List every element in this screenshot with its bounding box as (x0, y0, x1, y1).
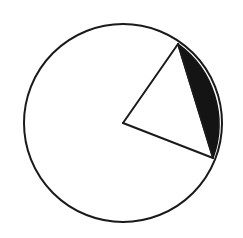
circle-segment-diagram (0, 0, 243, 238)
figure-container (0, 0, 243, 238)
